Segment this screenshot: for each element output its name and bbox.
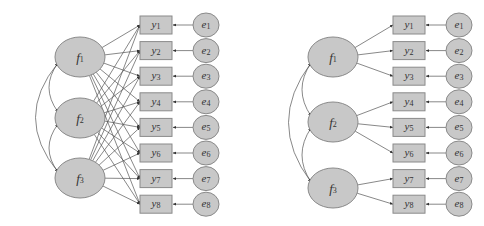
loading-f2-y5 [105, 121, 140, 127]
loading-f1-y1 [102, 25, 140, 48]
observed-y1: y1 [140, 16, 172, 34]
sem-diagrams: f1f2f3y1e1y2e2y3e3y4e4y5e5y6e6y7e7y8e8 f… [0, 0, 484, 226]
observed-y5: y5 [393, 118, 425, 136]
error-e4: e4 [173, 90, 219, 114]
observed-y8: y8 [393, 195, 425, 213]
loading-f2-y4 [104, 102, 140, 113]
observed-y6: y6 [393, 144, 425, 162]
loading-f2-y6 [102, 128, 140, 153]
error-e8: e8 [173, 192, 219, 216]
observed-y3: y3 [140, 67, 172, 85]
loading-f2-y4 [357, 102, 393, 116]
observed-y4: y4 [393, 93, 425, 111]
error-e6: e6 [426, 141, 472, 165]
covariance-f2-f3 [49, 124, 58, 172]
observed-y2: y2 [140, 42, 172, 60]
diagram-cross-loading: f1f2f3y1e1y2e2y3e3y4e4y5e5y6e6y7e7y8e8 [36, 13, 220, 216]
error-e4: e4 [426, 90, 472, 114]
loading-f3-y7 [358, 179, 393, 185]
loading-f1-y1 [355, 25, 393, 48]
latent-factor-f3: f3 [55, 158, 105, 198]
observed-y7: y7 [393, 170, 425, 188]
error-e6: e6 [173, 141, 219, 165]
error-e1: e1 [173, 13, 219, 37]
loading-f2-y6 [355, 131, 393, 153]
loading-f3-y8 [357, 193, 393, 204]
loading-f1-y3 [357, 63, 393, 76]
observed-y3: y3 [393, 67, 425, 85]
latent-factor-f2: f2 [55, 98, 105, 138]
loading-f1-y2 [358, 51, 393, 55]
error-e2: e2 [173, 39, 219, 63]
observed-y6: y6 [140, 144, 172, 162]
error-e3: e3 [426, 64, 472, 88]
latent-factor-f1: f1 [55, 37, 105, 77]
latent-factor-f3: f3 [308, 168, 358, 208]
latent-factor-f2: f2 [308, 102, 358, 142]
observed-y5: y5 [140, 118, 172, 136]
covariance-f2-f3 [302, 128, 311, 182]
error-e2: e2 [426, 39, 472, 63]
observed-y1: y1 [393, 16, 425, 34]
error-e7: e7 [173, 167, 219, 191]
diagram-simple-structure: f1f2f3y1e1y2e2y3e3y4e4y5e5y6e6y7e7y8e8 [289, 13, 473, 216]
covariance-f1-f2 [49, 63, 58, 112]
loading-f3-y6 [103, 153, 140, 170]
observed-y4: y4 [140, 93, 172, 111]
error-e7: e7 [426, 167, 472, 191]
error-e1: e1 [426, 13, 472, 37]
error-e5: e5 [426, 115, 472, 139]
latent-factor-f1: f1 [308, 37, 358, 77]
error-e5: e5 [173, 115, 219, 139]
loading-f1-y3 [104, 63, 140, 76]
observed-y8: y8 [140, 195, 172, 213]
loading-f3-y5 [99, 127, 140, 165]
error-e3: e3 [173, 64, 219, 88]
loading-f2-y5 [358, 124, 393, 128]
observed-y7: y7 [140, 170, 172, 188]
covariance-f1-f2 [302, 63, 311, 116]
error-e8: e8 [426, 192, 472, 216]
observed-y2: y2 [393, 42, 425, 60]
